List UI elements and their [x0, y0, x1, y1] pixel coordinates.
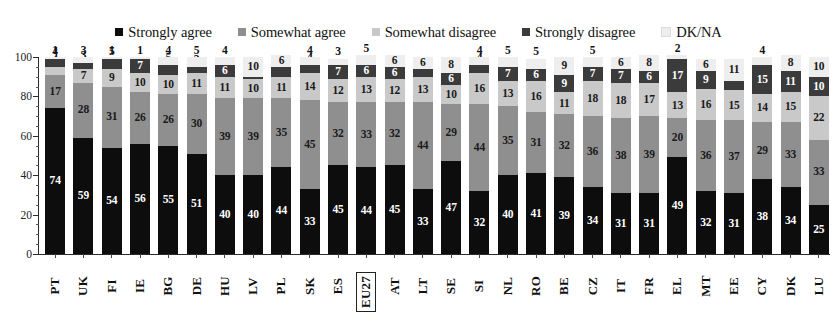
bar-segment[interactable]: 6	[385, 67, 405, 79]
bar-segment[interactable]: 29	[752, 122, 772, 179]
bar-segment[interactable]: 4	[413, 69, 433, 77]
bar-segment[interactable]: 6	[356, 65, 376, 77]
bar-segment[interactable]: 33	[809, 140, 829, 205]
bar-segment[interactable]: 11	[554, 92, 574, 114]
bar-segment[interactable]: 6	[639, 71, 659, 83]
bar-segment[interactable]: 55	[158, 146, 178, 254]
bar-segment[interactable]: 18	[611, 83, 631, 118]
bar-segment[interactable]: 4	[300, 57, 320, 65]
bar-segment[interactable]: 32	[469, 191, 489, 254]
bar-segment[interactable]: 30	[187, 94, 207, 153]
bar-segment[interactable]: 7	[73, 69, 93, 83]
bar-segment[interactable]: 34	[583, 187, 603, 254]
bar-segment[interactable]: 5	[583, 57, 603, 67]
bar-segment[interactable]: 22	[809, 96, 829, 139]
bar-column[interactable]: 33441346	[413, 57, 433, 254]
bar-segment[interactable]: 17	[667, 59, 687, 92]
bar-segment[interactable]: 15	[724, 90, 744, 120]
bar-column[interactable]: 45321273	[328, 57, 348, 254]
bar-column[interactable]: 31391768	[639, 57, 659, 254]
bar-column[interactable]: 45321266	[385, 57, 405, 254]
bar-segment[interactable]: 4	[215, 57, 235, 65]
bar-segment[interactable]: 15	[781, 92, 801, 122]
bar-segment[interactable]: 10	[130, 73, 150, 93]
bar-column[interactable]: 47291068	[441, 57, 461, 254]
bar-segment[interactable]: 3	[187, 67, 207, 73]
bar-segment[interactable]: 6	[611, 57, 631, 69]
bar-column[interactable]: 31381876	[611, 57, 631, 254]
bar-column[interactable]: 51301135	[187, 57, 207, 254]
bar-segment[interactable]: 20	[667, 118, 687, 157]
bar-segment[interactable]: 2	[667, 55, 687, 59]
bar-segment[interactable]: 11	[187, 73, 207, 95]
bar-segment[interactable]: 11	[271, 77, 291, 99]
bar-segment[interactable]: 1	[130, 57, 150, 59]
bar-segment[interactable]: 44	[413, 102, 433, 189]
bar-segment[interactable]: 3	[328, 59, 348, 65]
bar-segment[interactable]: 9	[696, 71, 716, 89]
bar-segment[interactable]: 6	[271, 55, 291, 67]
bar-segment[interactable]: 49	[667, 157, 687, 254]
bar-segment[interactable]: 39	[243, 98, 263, 175]
bar-segment[interactable]: 4	[300, 65, 320, 73]
bar-segment[interactable]: 31	[102, 87, 122, 148]
bar-column[interactable]: 2533221010	[809, 57, 829, 254]
bar-segment[interactable]: 11	[724, 59, 744, 81]
bar-segment[interactable]: 6	[385, 55, 405, 67]
bar-segment[interactable]: 37	[724, 120, 744, 193]
bar-segment[interactable]: 10	[809, 57, 829, 77]
bar-column[interactable]: 32361696	[696, 57, 716, 254]
bar-segment[interactable]: 8	[781, 55, 801, 71]
bar-segment[interactable]: 38	[611, 118, 631, 193]
bar-segment[interactable]: 38	[752, 179, 772, 254]
bar-segment[interactable]: 5	[356, 55, 376, 65]
bar-segment[interactable]: 6	[413, 57, 433, 69]
bar-segment[interactable]: 39	[215, 98, 235, 175]
bar-segment[interactable]: 12	[385, 79, 405, 103]
bar-segment[interactable]: 5	[498, 57, 518, 67]
bar-column[interactable]: 7417441	[45, 57, 65, 254]
bar-segment[interactable]: 7	[583, 67, 603, 81]
bar-segment[interactable]: 44	[271, 167, 291, 254]
bar-column[interactable]: 44351156	[271, 57, 291, 254]
bar-segment[interactable]: 5	[724, 81, 744, 91]
bar-segment[interactable]: 33	[356, 102, 376, 167]
bar-segment[interactable]: 5	[102, 59, 122, 69]
bar-segment[interactable]: 11	[781, 71, 801, 93]
bar-segment[interactable]: 9	[554, 75, 574, 93]
bar-column[interactable]: 32441644	[469, 57, 489, 254]
bar-segment[interactable]: 74	[45, 108, 65, 254]
bar-segment[interactable]: 47	[441, 161, 461, 254]
bar-segment[interactable]: 7	[328, 65, 348, 79]
bar-segment[interactable]: 4	[469, 57, 489, 65]
bar-segment[interactable]: 45	[300, 100, 320, 189]
bar-segment[interactable]: 40	[243, 175, 263, 254]
bar-segment[interactable]: 40	[215, 175, 235, 254]
bar-segment[interactable]: 16	[526, 81, 546, 113]
bar-segment[interactable]: 6	[696, 59, 716, 71]
bar-column[interactable]: 492013172	[667, 57, 687, 254]
bar-segment[interactable]: 5	[526, 59, 546, 69]
bar-segment[interactable]: 51	[187, 154, 207, 254]
bar-segment[interactable]: 10	[243, 57, 263, 77]
bar-segment[interactable]: 4	[752, 57, 772, 65]
bar-segment[interactable]: 34	[781, 187, 801, 254]
bar-segment[interactable]: 4	[45, 67, 65, 75]
bar-column[interactable]: 33451444	[300, 57, 320, 254]
bar-segment[interactable]: 36	[583, 116, 603, 187]
bar-segment[interactable]: 10	[809, 77, 829, 97]
bar-segment[interactable]: 3	[73, 63, 93, 69]
bar-column[interactable]: 343315118	[781, 57, 801, 254]
bar-segment[interactable]: 11	[215, 77, 235, 99]
bar-segment[interactable]: 8	[441, 57, 461, 73]
bar-segment[interactable]: 26	[158, 94, 178, 145]
bar-segment[interactable]: 56	[130, 144, 150, 254]
bar-segment[interactable]: 36	[696, 120, 716, 191]
bar-segment[interactable]: 32	[554, 114, 574, 177]
bar-column[interactable]: 55261054	[158, 57, 178, 254]
bar-column[interactable]: 40391164	[215, 57, 235, 254]
bar-segment[interactable]: 54	[102, 148, 122, 254]
bar-segment[interactable]: 6	[441, 73, 461, 85]
bar-segment[interactable]: 5	[187, 57, 207, 67]
bar-segment[interactable]: 17	[45, 75, 65, 108]
